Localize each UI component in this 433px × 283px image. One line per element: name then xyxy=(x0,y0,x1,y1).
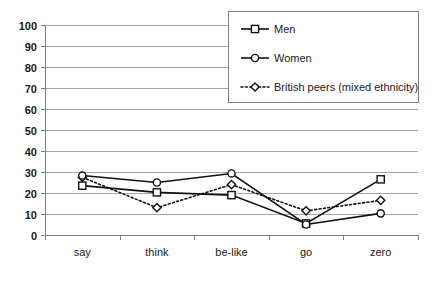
square-marker-icon xyxy=(251,25,258,32)
y-axis-tick-label: 30 xyxy=(25,167,37,179)
line-chart-figure: 1009080706050403020100saythinkbe-likegoz… xyxy=(0,0,433,283)
y-axis-tick-label: 40 xyxy=(25,146,37,158)
y-axis-tick-label: 70 xyxy=(25,83,37,95)
y-axis-tick-label: 90 xyxy=(25,41,37,53)
chart-legend: MenWomenBritish peers (mixed ethnicity) xyxy=(229,12,419,103)
x-axis-tick-label: say xyxy=(74,246,92,258)
legend-item-label: Men xyxy=(274,23,295,35)
y-axis-tick-label: 50 xyxy=(25,125,37,137)
diamond-marker-icon xyxy=(377,196,385,204)
y-axis-tick-label: 10 xyxy=(25,209,37,221)
diamond-marker-icon xyxy=(302,207,310,215)
circle-marker-icon xyxy=(228,170,235,177)
legend-item-label: British peers (mixed ethnicity) xyxy=(274,81,418,93)
y-axis-tick-label: 60 xyxy=(25,104,37,116)
square-marker-icon xyxy=(377,176,384,183)
legend-item-label: Women xyxy=(274,52,312,64)
x-axis-group: saythinkbe-likegozero xyxy=(46,235,419,258)
x-axis-tick-label: think xyxy=(145,246,169,258)
diamond-marker-icon xyxy=(153,204,161,212)
square-marker-icon xyxy=(153,189,160,196)
circle-marker-icon xyxy=(79,172,86,179)
x-axis-tick-label: go xyxy=(300,246,312,258)
chart-canvas: 1009080706050403020100saythinkbe-likegoz… xyxy=(0,0,433,283)
square-marker-icon xyxy=(79,182,86,189)
y-axis-tick-label: 100 xyxy=(19,20,37,32)
diamond-marker-icon xyxy=(227,181,235,189)
x-axis-tick-label: be-like xyxy=(215,246,247,258)
y-axis-tick-label: 80 xyxy=(25,62,37,74)
circle-marker-icon xyxy=(377,210,384,217)
circle-marker-icon xyxy=(251,54,258,61)
chart-series-group xyxy=(78,170,385,228)
circle-marker-icon xyxy=(153,179,160,186)
x-axis-tick-label: zero xyxy=(370,246,391,258)
square-marker-icon xyxy=(228,192,235,199)
circle-marker-icon xyxy=(303,221,310,228)
y-axis-tick-label: 0 xyxy=(31,230,37,242)
y-axis-tick-label: 20 xyxy=(25,188,37,200)
